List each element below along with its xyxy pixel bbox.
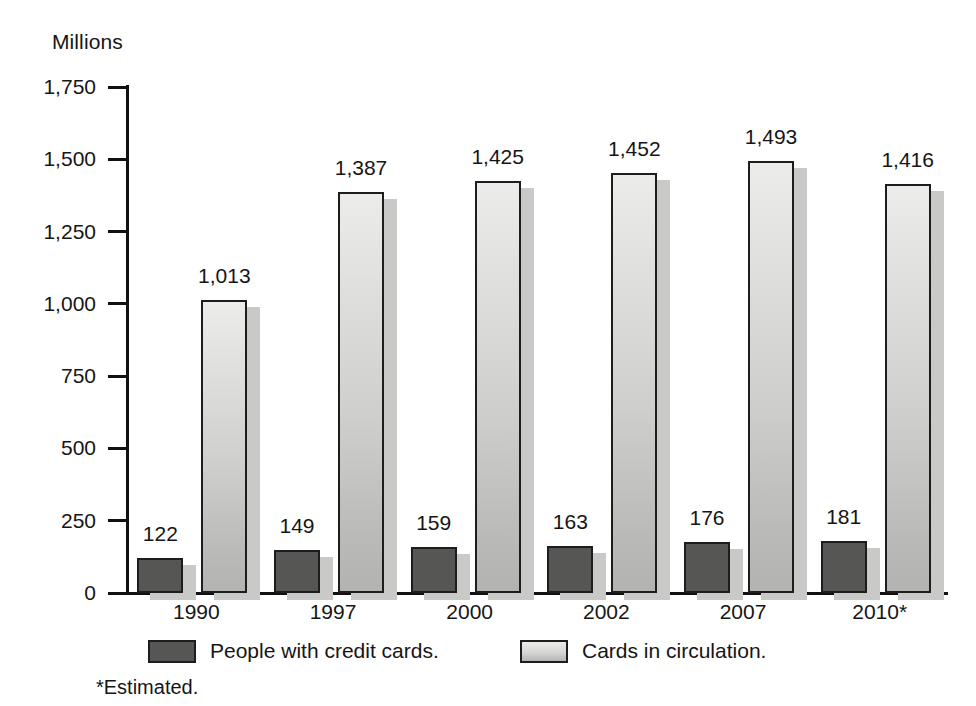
legend-swatch-cards [520,640,568,663]
x-axis-label: 1997 [265,600,402,624]
y-tick-mark: 500 [108,447,128,450]
bar-value-label: 159 [416,511,451,535]
bar-value-label: 1,416 [881,148,934,172]
plot-area: 02505007501,0001,2501,5001,750 1221,0131… [128,87,948,593]
y-tick-label: 250 [61,509,96,533]
bar-group: 1221,013 [128,87,265,593]
y-tick-label: 1,000 [43,292,96,316]
y-tick-label: 500 [61,436,96,460]
bar-people-with-credit-cards[interactable]: 163 [547,546,593,593]
y-tick-mark: 250 [108,519,128,522]
y-tick-mark: 1,000 [108,302,128,305]
bar-group: 1491,387 [265,87,402,593]
bar-cards-in-circulation[interactable]: 1,387 [338,192,384,593]
bar-rect [274,550,320,593]
bar-value-label: 1,493 [745,125,798,149]
y-axis-title: Millions [52,30,123,54]
y-tick-mark: 1,500 [108,158,128,161]
bar-cards-in-circulation[interactable]: 1,493 [748,161,794,593]
bar-value-label: 1,425 [471,145,524,169]
y-tick-mark: 1,750 [108,86,128,89]
bar-people-with-credit-cards[interactable]: 176 [684,542,730,593]
x-axis-label: 2010* [811,600,948,624]
bar-rect [547,546,593,593]
bar-value-label: 176 [689,506,724,530]
x-axis-label: 2007 [675,600,812,624]
bar-value-label: 163 [553,510,588,534]
bar-value-label: 149 [279,514,314,538]
x-axis-label: 1990 [128,600,265,624]
y-tick-label: 0 [84,581,96,605]
legend-label-cards: Cards in circulation. [582,639,766,663]
bar-cards-in-circulation[interactable]: 1,013 [201,300,247,593]
legend-item-people[interactable]: People with credit cards. [148,639,439,663]
bar-group: 1631,452 [538,87,675,593]
bar-cards-in-circulation[interactable]: 1,416 [885,184,931,593]
bar-rect [885,184,931,593]
bar-rect [611,173,657,593]
y-tick-label: 1,750 [43,75,96,99]
legend-item-cards[interactable]: Cards in circulation. [520,639,766,663]
bar-value-label: 181 [826,505,861,529]
bar-rect [684,542,730,593]
bar-value-label: 1,013 [198,264,251,288]
bar-value-label: 122 [143,522,178,546]
legend-swatch-people [148,640,196,663]
bar-rect [201,300,247,593]
y-tick-label: 1,250 [43,220,96,244]
bar-value-label: 1,452 [608,137,661,161]
bar-people-with-credit-cards[interactable]: 181 [821,541,867,593]
y-tick-mark: 0 [108,592,128,595]
bar-rect [475,181,521,593]
x-axis-label: 2002 [538,600,675,624]
bar-people-with-credit-cards[interactable]: 149 [274,550,320,593]
bar-value-label: 1,387 [335,156,388,180]
bar-rect [338,192,384,593]
bar-group: 1761,493 [675,87,812,593]
legend-label-people: People with credit cards. [210,639,439,663]
bar-chart: Millions 02505007501,0001,2501,5001,750 … [0,0,976,706]
y-tick-label: 1,500 [43,147,96,171]
footnote-estimated: *Estimated. [96,676,198,699]
bar-group: 1591,425 [401,87,538,593]
x-axis-label: 2000 [401,600,538,624]
bar-rect [821,541,867,593]
bar-people-with-credit-cards[interactable]: 159 [411,547,457,593]
y-tick-mark: 750 [108,375,128,378]
bar-rect [137,558,183,593]
y-tick-mark: 1,250 [108,230,128,233]
y-tick-label: 750 [61,364,96,388]
bar-group: 1811,416 [811,87,948,593]
bar-cards-in-circulation[interactable]: 1,425 [475,181,521,593]
bar-cards-in-circulation[interactable]: 1,452 [611,173,657,593]
bar-rect [748,161,794,593]
bar-people-with-credit-cards[interactable]: 122 [137,558,183,593]
bar-rect [411,547,457,593]
